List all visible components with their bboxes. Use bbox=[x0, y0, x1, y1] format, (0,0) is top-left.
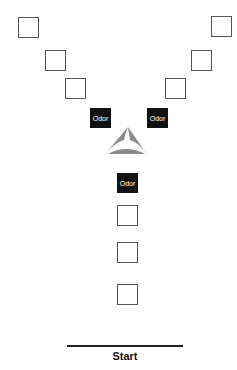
right-arm-box-2 bbox=[191, 50, 212, 71]
odor-label: Odor bbox=[93, 115, 109, 122]
odor-marker-right: Odor bbox=[147, 108, 168, 128]
right-arm-box-3 bbox=[165, 78, 186, 99]
start-line bbox=[67, 345, 183, 347]
y-maze-triangle-icon bbox=[104, 126, 148, 160]
stem-box-1 bbox=[117, 205, 138, 226]
odor-marker-left: Odor bbox=[90, 108, 111, 128]
right-arm-box-1 bbox=[211, 16, 232, 37]
odor-label: Odor bbox=[120, 180, 136, 187]
left-arm-box-2 bbox=[45, 50, 66, 71]
odor-label: Odor bbox=[150, 115, 166, 122]
left-arm-box-3 bbox=[65, 78, 86, 99]
start-label: Start bbox=[67, 350, 183, 362]
odor-marker-stem: Odor bbox=[117, 173, 138, 193]
left-arm-box-1 bbox=[18, 17, 39, 38]
stem-box-3 bbox=[117, 284, 138, 305]
stem-box-2 bbox=[117, 242, 138, 263]
